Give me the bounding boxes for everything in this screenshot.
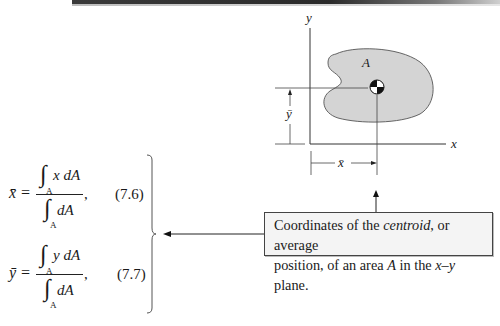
integral-subscript: A [50,220,57,230]
x-axis-label: x [451,136,457,152]
callout-emphasis: A [387,257,396,273]
centroid-callout-box: Coordinates of the centroid, or average … [264,212,493,256]
denominator: dA [57,202,74,219]
callout-text: Coordinates of the [274,217,383,233]
integral-icon: ∫ [40,242,47,266]
callout-text: in the [396,257,435,273]
xbar-arrowhead-icon [371,161,377,165]
numerator: x dA [53,167,80,184]
numerator: y dA [53,247,80,264]
equation-lhs: x̄ = [9,184,31,202]
area-label: A [362,55,370,71]
comma: , [84,266,88,283]
centroid-marker-icon [370,80,384,94]
right-brace [147,155,156,313]
y-axis-label: y [306,10,312,26]
callout-emphasis: centroid [383,217,430,233]
equation-lhs: ȳ = [9,264,31,282]
equation-number: (7.6) [115,186,144,203]
callout-text: plane. [274,277,309,293]
callout-emphasis: x–y [435,257,455,273]
integral-icon: ∫ [44,276,51,300]
callout-up-arrowhead-icon [373,190,379,197]
ybar-label: ȳ [286,106,292,122]
callout-left-arrowhead-icon [163,231,171,237]
xbar-label: x̄ [338,155,344,171]
integral-icon: ∫ [40,162,47,186]
callout-line-1: Coordinates of the centroid, or average [274,215,492,255]
comma: , [84,186,88,203]
ybar-arrowhead-icon [288,89,292,95]
denominator: dA [57,282,74,299]
integral-subscript: A [50,300,57,310]
callout-line-2: position, of an area A in the x–y plane. [274,255,492,295]
callout-text: position, of an area [274,257,387,273]
integral-icon: ∫ [44,196,51,220]
equation-number: (7.7) [117,266,146,283]
